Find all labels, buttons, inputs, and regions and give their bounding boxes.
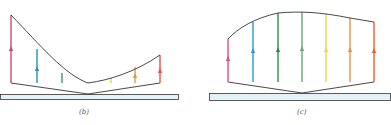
arrow-up-icon xyxy=(133,73,137,78)
diagram-canvas xyxy=(0,0,391,125)
arrow-up-icon xyxy=(300,46,304,51)
panel-label-b: (b) xyxy=(79,108,89,116)
arrow-up-icon xyxy=(35,66,39,71)
cone-outline-b xyxy=(11,83,160,94)
arrow-up-icon xyxy=(324,47,328,52)
arrow-up-icon xyxy=(226,56,230,61)
profile-curve-b xyxy=(11,15,160,83)
panel-label-c: (c) xyxy=(297,108,306,116)
surface-slab-b xyxy=(1,95,179,100)
surface-slab-c xyxy=(210,94,391,101)
arrow-up-icon xyxy=(158,68,162,73)
cone-outline-c xyxy=(228,82,374,93)
arrow-up-icon xyxy=(251,48,255,53)
arrow-up-icon xyxy=(9,46,13,51)
arrow-up-icon xyxy=(348,47,352,52)
profile-curve-c xyxy=(228,12,374,39)
arrow-up-icon xyxy=(276,47,280,52)
arrow-up-icon xyxy=(372,48,376,53)
